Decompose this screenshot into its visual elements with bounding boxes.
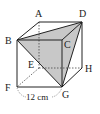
edge-ef [17, 68, 39, 87]
label-d: D [79, 8, 86, 19]
label-a: A [35, 8, 43, 19]
edge-length-label: 12 cm [26, 92, 48, 102]
label-f: F [5, 82, 11, 93]
label-g: G [62, 89, 69, 100]
label-e: E [28, 59, 34, 70]
label-c: C [64, 39, 71, 50]
label-h: H [85, 63, 92, 74]
label-b: B [5, 35, 12, 46]
cube-diagram: A D B C E H F G 12 cm [0, 0, 100, 114]
